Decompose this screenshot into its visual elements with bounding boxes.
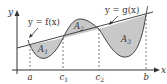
tick-label-c1: c1 [60, 72, 69, 83]
pointer-arrow-f [31, 28, 38, 36]
tick-label-b: b [144, 72, 149, 82]
tick-label-c2: c2 [96, 72, 105, 83]
label-g: y = g(x) [104, 5, 139, 15]
x-axis-arrow-icon [154, 68, 160, 73]
x-axis-label: x [161, 65, 166, 75]
area-between-curves-diagram: y x y = f(x) y = g(x) A1 A2 A3 a c1 c2 b [0, 0, 167, 84]
tick-label-a: a [28, 72, 33, 82]
y-axis-label: y [7, 7, 14, 17]
label-f: y = f(x) [27, 17, 60, 27]
y-axis-arrow-icon [15, 10, 20, 16]
